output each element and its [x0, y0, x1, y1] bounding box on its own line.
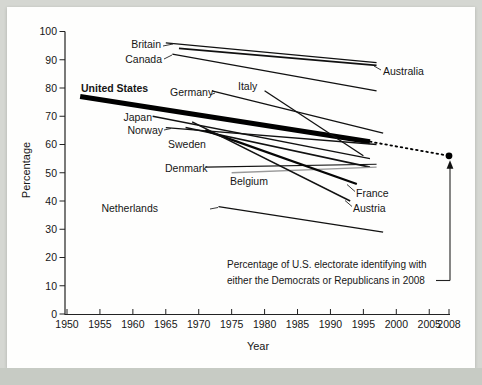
label-belgium: Belgium	[230, 175, 268, 187]
x-tick-label: 2008	[437, 318, 461, 330]
leader-austria	[345, 201, 352, 207]
annotation-line2: either the Democrats or Republicans in 2…	[227, 275, 425, 286]
leader-canada	[164, 55, 172, 59]
y-tick-label: 20	[45, 251, 57, 263]
x-tick-label: 1955	[88, 318, 112, 330]
label-austria: Austria	[353, 202, 386, 214]
y-tick-label: 90	[45, 54, 57, 66]
y-tick-label: 100	[39, 25, 57, 37]
y-tick-label: 10	[45, 280, 57, 292]
scanned-page: 0102030405060708090100195019551960196519…	[0, 0, 482, 385]
line-italy	[265, 91, 364, 156]
x-tick-label: 1950	[55, 318, 79, 330]
annotation-arrowhead	[447, 160, 454, 169]
x-tick-label: 1985	[286, 318, 310, 330]
annotation-arrow	[436, 152, 453, 280]
annotation-line1: Percentage of U.S. electorate identifyin…	[227, 259, 427, 270]
x-tick-label: 1965	[154, 318, 178, 330]
x-tick-label: 1995	[352, 318, 376, 330]
x-tick-label: 2000	[385, 318, 409, 330]
line-denmark	[205, 164, 376, 167]
leader-australia	[374, 66, 381, 70]
label-britain: Britain	[131, 38, 161, 50]
y-axis-title: Percentage	[20, 142, 32, 198]
leader-netherlands	[210, 208, 218, 210]
x-tick-label: 1990	[319, 318, 343, 330]
label-united-states: United States	[81, 82, 148, 94]
label-netherlands: Netherlands	[101, 202, 158, 214]
y-tick-label: 30	[45, 223, 57, 235]
party-identification-decline-chart: 0102030405060708090100195019551960196519…	[0, 0, 482, 385]
label-japan: Japan	[123, 111, 152, 123]
y-tick-label: 50	[45, 167, 57, 179]
y-tick-label: 60	[45, 138, 57, 150]
leader-norway	[164, 129, 171, 131]
label-canada: Canada	[125, 53, 162, 65]
y-tick-label: 40	[45, 195, 57, 207]
label-italy: Italy	[238, 80, 258, 92]
label-norway: Norway	[127, 124, 163, 136]
marker-dot-2008	[446, 152, 453, 159]
y-tick-label: 70	[45, 110, 57, 122]
line-britain	[166, 43, 377, 63]
line-australia	[179, 48, 377, 65]
label-france: France	[356, 187, 389, 199]
x-tick-label: 1975	[220, 318, 244, 330]
line-united-states-dotted-extension	[370, 142, 449, 156]
x-tick-label: 1960	[121, 318, 145, 330]
leader-britain	[163, 44, 173, 46]
leader-france	[347, 185, 355, 192]
label-sweden: Sweden	[168, 138, 206, 150]
y-tick-label: 80	[45, 82, 57, 94]
x-axis-title: Year	[247, 340, 270, 352]
label-germany: Germany	[170, 86, 214, 98]
label-australia: Australia	[383, 65, 424, 77]
x-tick-label: 1980	[253, 318, 277, 330]
label-denmark: Denmark	[165, 162, 208, 174]
line-belgium	[232, 167, 377, 173]
x-tick-label: 1970	[187, 318, 211, 330]
